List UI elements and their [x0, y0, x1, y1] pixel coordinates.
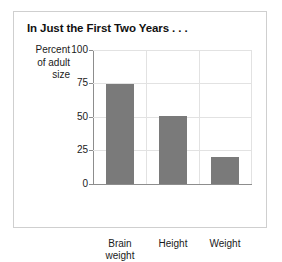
- category-separator-2: [199, 50, 200, 184]
- bar-weight: [211, 157, 239, 184]
- x-category-label-weight: Weight: [193, 238, 257, 250]
- tick-mark-0: [89, 184, 93, 185]
- gridline-100: [93, 50, 252, 51]
- x-axis-line: [93, 184, 252, 185]
- category-separator-1: [146, 50, 147, 184]
- tick-mark-25: [89, 150, 93, 151]
- category-separator-3: [251, 50, 252, 184]
- plot-area: Brain weight Height Weight: [93, 50, 252, 184]
- tick-mark-75: [89, 83, 93, 84]
- bar-height: [159, 116, 187, 184]
- x-category-label-weight-line-1: Weight: [193, 238, 257, 250]
- tick-mark-100: [89, 50, 93, 51]
- y-tick-label-100: 100: [58, 45, 88, 55]
- y-axis-label-line-2: of adult: [18, 57, 70, 70]
- bar-brain-weight: [106, 84, 134, 185]
- y-tick-label-50: 50: [58, 112, 88, 122]
- y-tick-label-25: 25: [58, 145, 88, 155]
- tick-mark-50: [89, 117, 93, 118]
- x-category-label-brain-weight-line-2: weight: [88, 250, 152, 262]
- y-tick-label-0: 0: [58, 179, 88, 189]
- y-tick-label-75: 75: [58, 78, 88, 88]
- chart-title: In Just the First Two Years . . .: [27, 22, 188, 34]
